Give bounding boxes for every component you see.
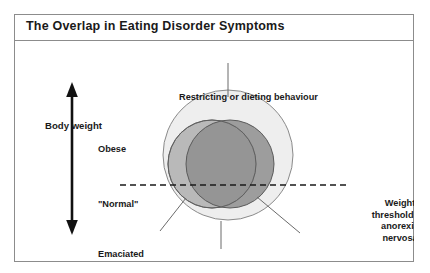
axis-tick-emaciated: Emaciated xyxy=(98,249,144,259)
venn-diagram-graphic xyxy=(14,41,414,262)
axis-tick-normal: "Normal" xyxy=(98,199,138,209)
label-restricting-behaviour: Restricting or dieting behaviour xyxy=(179,92,318,102)
label-weight-threshold: Weight threshold for anorexia nervosa xyxy=(369,198,414,244)
body-weight-axis-arrow xyxy=(66,82,78,235)
label-body-weight: Body weight xyxy=(45,120,102,131)
leader-line-purgers xyxy=(160,198,186,231)
page-title: The Overlap in Eating Disorder Symptoms xyxy=(26,19,285,33)
leader-line-binge-eating xyxy=(257,197,300,233)
axis-tick-obese: Obese xyxy=(98,144,126,154)
diagram-stage: Restricting or dieting behaviour Body we… xyxy=(14,41,414,262)
inner-circle-binge-eating xyxy=(186,120,274,208)
figure-root: The Overlap in Eating Disorder Symptoms xyxy=(0,0,430,273)
